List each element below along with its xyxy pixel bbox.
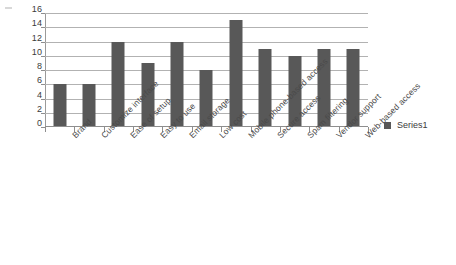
y-axis-tick-label: 4 — [18, 91, 42, 100]
y-axis-tick-label: 6 — [18, 76, 42, 85]
corner-artifact — [5, 7, 12, 9]
x-axis-category-label: Spam filtering — [305, 133, 312, 140]
y-axis-tick-label: 14 — [18, 19, 42, 28]
y-axis-tick — [41, 84, 45, 85]
bar-slot — [74, 13, 103, 127]
chart-legend: Series1 — [384, 120, 428, 130]
x-axis-category-label: Ease of setup — [128, 133, 135, 140]
y-axis-tick-labels: 1614121086420 — [18, 9, 42, 128]
square-swatch-icon — [384, 122, 391, 129]
y-axis-tick-label: 0 — [18, 119, 42, 128]
y-axis-tick-label: 8 — [18, 62, 42, 71]
x-axis-category-label: Secure access — [275, 133, 282, 140]
x-axis-category-labels: BrandCustomize interfaceEase of setupEas… — [45, 133, 385, 258]
x-axis-category-label: Email storage — [187, 133, 194, 140]
x-axis-category-label: Brand — [70, 133, 77, 140]
bar-slot — [221, 13, 250, 127]
y-axis-tick — [41, 56, 45, 57]
y-axis-tick — [41, 27, 45, 28]
legend-entry-label: Series1 — [397, 120, 428, 130]
bar-chart: 1614121086420 BrandCustomize interfaceEa… — [0, 0, 456, 265]
y-axis-tick — [41, 113, 45, 114]
y-axis-tick — [41, 13, 45, 14]
x-axis-category-label: Mobile phone-based access — [246, 133, 253, 140]
y-axis-tick-label: 10 — [18, 48, 42, 57]
y-axis-tick-label: 2 — [18, 105, 42, 114]
y-axis-tick-label: 12 — [18, 34, 42, 43]
y-axis-tick — [41, 42, 45, 43]
y-axis-tick-label: 16 — [18, 5, 42, 14]
bar-slot — [45, 13, 74, 127]
x-axis-category-label: Easy to use — [158, 133, 165, 140]
x-axis-tick — [45, 127, 46, 132]
bar[interactable] — [53, 84, 66, 127]
x-axis-category-label: Customize interface — [99, 133, 106, 140]
x-axis-category-label: Web-based access — [363, 133, 370, 140]
y-axis-tick — [41, 99, 45, 100]
y-axis-tick — [41, 70, 45, 71]
x-axis-category-label: Low cost — [217, 133, 224, 140]
x-axis-category-label: Vendor support — [334, 133, 341, 140]
